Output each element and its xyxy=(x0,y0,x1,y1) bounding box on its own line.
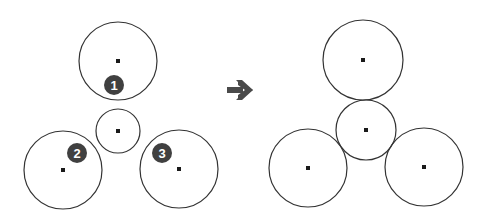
badge-3: 3 xyxy=(152,143,172,163)
before-center-dot-bottom-right xyxy=(177,167,181,171)
before-center-dot-center xyxy=(116,129,120,133)
badge-2-label: 2 xyxy=(73,146,80,161)
after-center-dot-bottom-right xyxy=(422,165,426,169)
badge-1-label: 1 xyxy=(110,78,117,93)
after-center-dot-top xyxy=(361,58,365,62)
after-center-dot-center xyxy=(364,128,368,132)
right-arrow-icon xyxy=(227,80,253,100)
circle-rearrangement-diagram: 1 2 3 xyxy=(0,0,487,223)
before-center-dot-top xyxy=(116,59,120,63)
after-group xyxy=(269,20,463,207)
badge-1: 1 xyxy=(104,75,124,95)
before-center-dot-bottom-left xyxy=(61,168,65,172)
badge-2: 2 xyxy=(67,143,87,163)
after-center-dot-bottom-left xyxy=(306,166,310,170)
before-group: 1 2 3 xyxy=(24,22,218,209)
badge-3-label: 3 xyxy=(158,146,165,161)
